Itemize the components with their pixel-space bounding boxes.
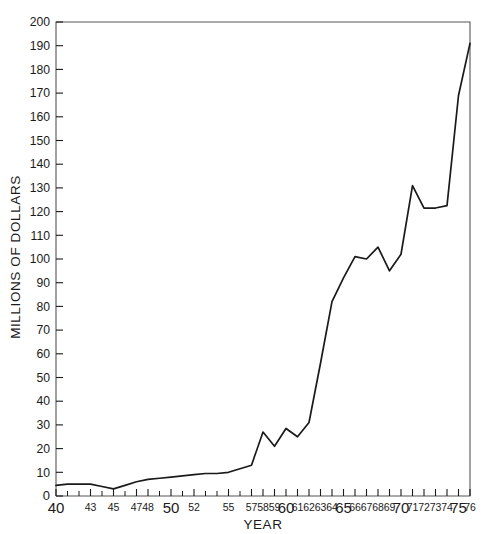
x-tick-label: 55 [223, 501, 235, 513]
x-tick-label: 40 [48, 499, 65, 516]
x-tick-label: 68 [372, 501, 384, 513]
data-series-line [56, 43, 470, 489]
x-tick-label: 48 [142, 501, 154, 513]
x-tick-label: 71 [407, 501, 419, 513]
x-tick-label: 52 [188, 501, 200, 513]
y-tick-label: 80 [36, 300, 50, 314]
y-tick-label: 190 [30, 39, 51, 53]
x-tick-label: 63 [315, 501, 327, 513]
x-tick-label: 45 [108, 501, 120, 513]
x-tick-label: 66 [349, 501, 361, 513]
x-axis-title: YEAR [243, 517, 282, 532]
x-tick-label: 73 [430, 501, 442, 513]
y-axis: 0102030405060708090100110120130140150160… [30, 15, 63, 503]
y-tick-label: 10 [36, 466, 50, 480]
x-tick-label: 76 [464, 501, 476, 513]
y-tick-label: 90 [36, 276, 50, 290]
x-tick-label: 58 [257, 501, 269, 513]
x-axis: 4043454748505255575859606162636465666768… [48, 489, 476, 516]
y-tick-label: 150 [30, 134, 51, 148]
y-tick-label: 50 [36, 371, 50, 385]
y-tick-label: 130 [30, 181, 51, 195]
y-tick-label: 180 [30, 63, 51, 77]
x-tick-label: 50 [163, 499, 180, 516]
x-tick-label: 43 [85, 501, 97, 513]
x-tick-label: 47 [131, 501, 143, 513]
y-axis-title: MILLIONS OF DOLLARS [8, 175, 23, 339]
y-tick-label: 110 [31, 229, 51, 243]
y-tick-label: 200 [30, 15, 51, 29]
y-tick-label: 160 [30, 110, 51, 124]
chart-canvas: 0102030405060708090100110120130140150160… [0, 0, 489, 534]
line-chart: 0102030405060708090100110120130140150160… [0, 0, 489, 534]
y-tick-label: 70 [36, 323, 50, 337]
y-tick-label: 20 [36, 442, 50, 456]
y-tick-label: 120 [30, 205, 51, 219]
x-tick-label: 57 [246, 501, 258, 513]
x-tick-label: 72 [418, 501, 430, 513]
x-tick-label: 62 [303, 501, 315, 513]
plot-frame [56, 22, 470, 496]
y-tick-label: 30 [36, 418, 50, 432]
y-tick-label: 40 [36, 394, 50, 408]
x-tick-label: 67 [361, 501, 373, 513]
y-tick-label: 140 [30, 157, 51, 171]
y-tick-label: 100 [30, 252, 51, 266]
x-tick-label: 61 [292, 501, 304, 513]
y-tick-label: 60 [36, 347, 50, 361]
y-tick-label: 170 [30, 86, 51, 100]
